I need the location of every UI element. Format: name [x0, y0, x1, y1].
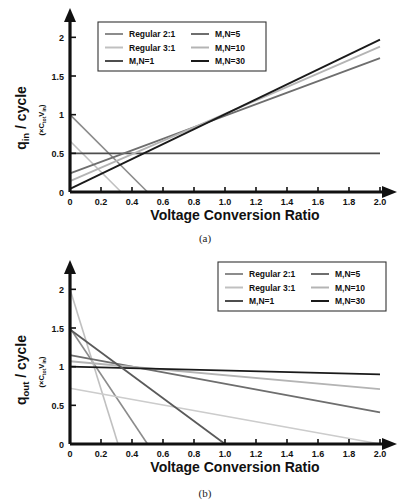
svg-text:qout / cycle: qout / cycle [13, 335, 31, 405]
ylabel-a-rest: / cycle [13, 86, 29, 133]
x-tick-label: 2.0 [374, 449, 387, 459]
ylabel-a-q: q [13, 141, 29, 150]
x-tick-label: 1.6 [312, 197, 325, 207]
series-line [70, 58, 380, 173]
legend-label: M,N=5 [335, 269, 361, 279]
svg-text:(×CtotVin): (×CtotVin) [37, 356, 47, 387]
series-line [70, 330, 225, 444]
legend-label: M,N=10 [335, 283, 365, 293]
chart-b-svg: 00.20.40.60.81.01.21.41.61.82.000.511.52… [0, 252, 411, 504]
legend-label: M,N=30 [335, 296, 365, 306]
ylabel-a-sub: in [20, 133, 31, 142]
legend-label: M,N=30 [215, 56, 245, 66]
figure-panel-a: 00.20.40.60.81.01.21.41.61.82.000.511.52… [0, 0, 411, 252]
x-tick-label: 0 [67, 449, 72, 459]
y-tick-label: 2 [59, 33, 64, 43]
caption-a-svg: (a) [0, 228, 411, 250]
legend-label: Regular 3:1 [249, 283, 296, 293]
x-tick-label: 1.0 [219, 449, 232, 459]
caption-a: (a) [199, 232, 212, 245]
series-line [70, 328, 148, 444]
chart-a-ylabel-units: (×CtotVin) [37, 104, 47, 135]
chart-a-xlabel: Voltage Conversion Ratio [150, 207, 319, 223]
ylabel-b-sub: out [20, 381, 31, 397]
x-tick-label: 0.2 [95, 197, 108, 207]
legend-label: Regular 2:1 [249, 269, 296, 279]
x-tick-label: 1.0 [219, 197, 232, 207]
legend-label: Regular 3:1 [129, 43, 176, 53]
x-tick-label: 0.4 [126, 197, 139, 207]
x-tick-label: 1.6 [312, 449, 325, 459]
x-tick-label: 0.8 [188, 449, 201, 459]
legend-label: M,N=5 [215, 29, 241, 39]
chart-a-legend: Regular 2:1Regular 3:1M,N=1M,N=5M,N=10M,… [98, 22, 266, 71]
x-tick-label: 1.4 [281, 449, 294, 459]
chart-b-legend: Regular 2:1Regular 3:1M,N=1M,N=5M,N=10M,… [218, 262, 386, 311]
series-line [70, 388, 380, 444]
y-tick-label: 0 [59, 188, 64, 198]
ylabel-a-units-open: (×C [37, 123, 46, 136]
y-tick-label: 1 [59, 362, 64, 372]
x-tick-label: 0 [67, 197, 72, 207]
plot-area-b: 00.20.40.60.81.01.21.41.61.82.000.511.52… [0, 252, 411, 504]
chart-b-xlabel: Voltage Conversion Ratio [150, 459, 319, 475]
y-tick-label: 1.5 [51, 324, 64, 334]
x-tick-label: 1.2 [250, 197, 263, 207]
x-tick-label: 0.6 [157, 197, 170, 207]
x-tick-label: 0.6 [157, 449, 170, 459]
chart-b-ylabel: qout / cycle [13, 335, 31, 405]
series-line [70, 367, 380, 375]
ylabel-b-units-close: ) [37, 356, 46, 359]
series-line [70, 361, 380, 389]
x-tick-label: 0.8 [188, 197, 201, 207]
ylabel-b-q: q [13, 396, 29, 405]
figure-panel-b: 00.20.40.60.81.01.21.41.61.82.000.511.52… [0, 252, 411, 504]
y-tick-label: 0.5 [51, 149, 64, 159]
caption-b: (b) [199, 487, 212, 500]
x-tick-label: 1.4 [281, 197, 294, 207]
svg-text:(×CtotVin): (×CtotVin) [37, 104, 47, 135]
plot-area-a: 00.20.40.60.81.01.21.41.61.82.000.511.52… [0, 0, 411, 252]
chart-b-series-group [70, 289, 380, 444]
y-tick-label: 1 [59, 110, 64, 120]
x-tick-label: 0.4 [126, 449, 139, 459]
legend-label: M,N=10 [215, 43, 245, 53]
y-tick-label: 1.5 [51, 72, 64, 82]
legend-label: M,N=1 [249, 296, 275, 306]
y-tick-label: 2 [59, 285, 64, 295]
x-tick-label: 0.2 [95, 449, 108, 459]
x-tick-label: 1.2 [250, 449, 263, 459]
ylabel-b-rest: / cycle [13, 335, 29, 382]
x-tick-label: 2.0 [374, 197, 387, 207]
x-tick-label: 1.8 [343, 197, 356, 207]
legend-label: Regular 2:1 [129, 29, 176, 39]
chart-a-svg: 00.20.40.60.81.01.21.41.61.82.000.511.52… [0, 0, 411, 252]
legend-label: M,N=1 [129, 56, 155, 66]
svg-text:qin / cycle: qin / cycle [13, 86, 31, 150]
chart-a-ylabel: qin / cycle [13, 86, 31, 150]
chart-b-ylabel-units: (×CtotVin) [37, 356, 47, 387]
x-tick-label: 1.8 [343, 449, 356, 459]
y-tick-label: 0.5 [51, 401, 64, 411]
ylabel-b-units-open: (×C [37, 375, 46, 388]
y-tick-label: 0 [59, 440, 64, 450]
ylabel-a-units-close: ) [37, 104, 46, 107]
